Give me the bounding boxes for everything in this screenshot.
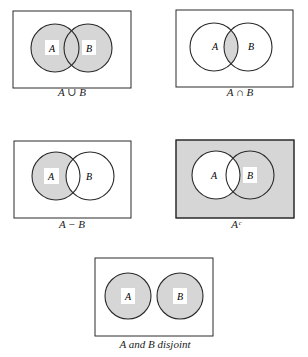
caption-disjoint: A and B disjoint: [100, 338, 210, 350]
caption-union: A ∪ B: [40, 86, 104, 99]
set-a-label: A: [48, 43, 56, 54]
venn-difference: A B: [0, 130, 154, 222]
caption-difference: A − B: [44, 218, 100, 230]
caption-complement: Aᶜ: [216, 218, 256, 230]
set-b-label: B: [86, 171, 92, 182]
set-a-label: A: [124, 291, 132, 302]
venn-union: A B: [0, 0, 154, 92]
caption-intersection: A ∩ B: [208, 86, 272, 98]
set-a-label: A: [47, 171, 55, 182]
set-b-label: B: [177, 291, 183, 302]
set-b-label: B: [86, 43, 92, 54]
set-b-label: B: [248, 41, 254, 52]
venn-complement: A B: [154, 130, 308, 222]
set-b-label: B: [247, 170, 253, 181]
venn-intersection: A B: [154, 0, 308, 92]
venn-disjoint: A B: [80, 250, 230, 340]
set-a-label: A: [211, 41, 219, 52]
set-a-label: A: [210, 170, 218, 181]
